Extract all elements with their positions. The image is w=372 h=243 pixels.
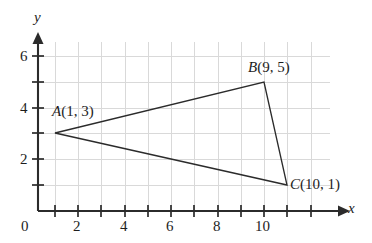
x-tick-label-2: 2 (73, 219, 81, 234)
point-label-c-name: C (290, 176, 300, 192)
point-label-c: C(10, 1) (290, 177, 340, 192)
y-axis-label: y (34, 10, 41, 25)
coordinate-plot-svg (0, 0, 372, 243)
x-axis (38, 205, 350, 217)
point-label-a-coords: (1, 3) (61, 103, 94, 119)
point-label-c-coords: (10, 1) (300, 176, 340, 192)
y-axis-arrowhead-icon (33, 32, 44, 44)
point-label-a-name: A (52, 103, 61, 119)
coordinate-plane-figure: y x 0 2 4 6 8 10 2 4 6 A(1, 3) B(9, 5) C… (0, 0, 372, 243)
grid-lines-horizontal (38, 56, 330, 185)
y-tick-label-2: 2 (20, 152, 28, 167)
point-label-a: A(1, 3) (52, 104, 94, 119)
point-label-b: B(9, 5) (248, 60, 290, 75)
y-tick-label-6: 6 (20, 49, 28, 64)
x-axis-label: x (348, 201, 355, 216)
y-axis (32, 32, 44, 211)
x-tick-label-8: 8 (213, 219, 221, 234)
x-tick-label-4: 4 (120, 219, 128, 234)
x-tick-label-6: 6 (166, 219, 174, 234)
origin-label: 0 (21, 219, 29, 234)
x-tick-label-10: 10 (255, 219, 270, 234)
y-tick-label-4: 4 (20, 101, 28, 116)
point-label-b-coords: (9, 5) (257, 59, 290, 75)
point-label-b-name: B (248, 59, 257, 75)
